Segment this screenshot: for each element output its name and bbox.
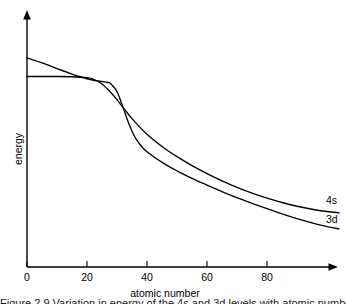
figure-caption: Figure 2.9 Variation in energy of the 4s… [0, 297, 346, 304]
figure-container: 0 20 40 60 80 atomic number energy 4s 3d… [0, 0, 346, 304]
curve-label-4s: 4s [326, 194, 337, 206]
x-axis-ticks [27, 261, 267, 267]
y-axis-title: energy [12, 133, 24, 165]
x-tick-label-0: 0 [24, 272, 30, 283]
y-axis-arrowhead [23, 10, 31, 20]
curve-4s [27, 76, 339, 212]
x-axis-arrowhead [329, 263, 339, 271]
chart-canvas [0, 0, 346, 304]
x-tick-label-20: 20 [81, 272, 93, 283]
curve-label-3d: 3d [326, 213, 338, 225]
curve-3d [27, 58, 339, 229]
x-tick-label-60: 60 [201, 272, 213, 283]
x-tick-label-80: 80 [261, 272, 273, 283]
x-tick-label-40: 40 [141, 272, 153, 283]
